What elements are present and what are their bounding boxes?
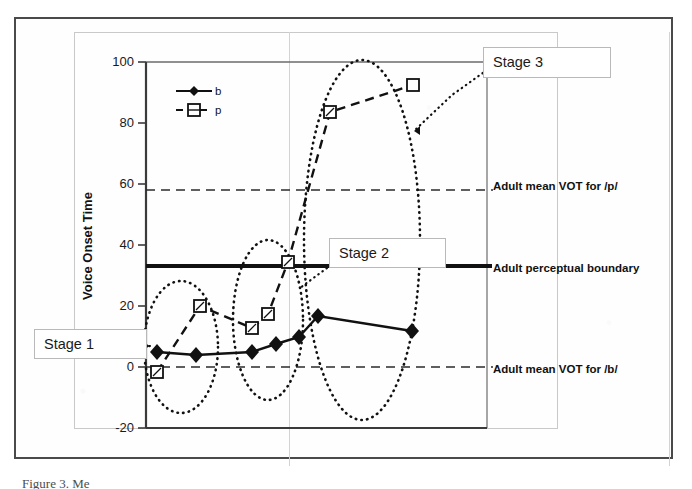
leader-stage-3 [414,70,487,131]
y-tick-label-0: 0 [100,359,134,374]
annotation-stage-1: Stage 1 [34,329,147,359]
figure-caption: Figure 3. Me [22,476,90,489]
ref-label-adult-mean-vot-b: Adult mean VOT for /b/ [493,363,618,375]
ref-label-adult-perceptual-boundary: Adult perceptual boundary [493,262,639,274]
annotation-stage-2: Stage 2 [329,238,446,268]
annotation-stage-1-label: Stage 1 [44,335,94,353]
series-p-markers [151,79,419,378]
annotation-stage-3: Stage 3 [483,47,611,78]
series-b-markers [150,308,419,363]
annotation-stage-3-label: Stage 3 [493,53,543,71]
legend-label-b: b [215,85,221,97]
annotation-stage-2-label: Stage 2 [339,244,389,262]
y-tick-label-20: 20 [100,298,134,313]
y-axis-label: Voice Onset Time [80,192,95,300]
ref-label-adult-mean-vot-p: Adult mean VOT for /p/ [493,180,618,192]
y-tick-label--20: -20 [100,420,134,435]
series-p-line [157,85,413,372]
reference-lines [146,190,493,367]
y-tick-label-80: 80 [100,115,134,130]
y-tick-label-40: 40 [100,237,134,252]
callout-leader-lines [110,70,487,352]
legend-label-p: p [215,104,221,116]
y-tick-label-100: 100 [100,54,134,69]
series-p-marker-glyphs [153,108,334,376]
series-p [151,79,419,378]
y-axis-ticks [138,62,146,428]
legend-marks [176,86,212,116]
y-tick-label-60: 60 [100,176,134,191]
series-b [150,308,419,363]
